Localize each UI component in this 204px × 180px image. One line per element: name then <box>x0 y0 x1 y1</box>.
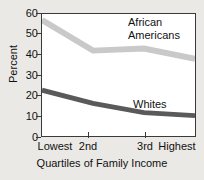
series-label-line-1: African <box>128 16 180 29</box>
x-tick-label-highest: Highest <box>151 140 203 152</box>
x-axis-title: Quartiles of Family Income <box>0 157 204 169</box>
y-tick-label: 10 <box>14 111 38 122</box>
y-axis-tick-mark <box>36 137 41 138</box>
y-axis-title: Percent <box>7 29 19 99</box>
cropped-title-fragment <box>28 0 178 3</box>
chart-figure: 60 50 40 30 20 10 0 Percent Lowest 2nd 3… <box>0 0 204 180</box>
x-axis-tick-mark <box>145 132 146 138</box>
line-whites <box>42 90 195 115</box>
y-tick-label: 60 <box>14 8 38 19</box>
x-axis-tick-mark <box>88 132 89 138</box>
series-label-whites: Whites <box>133 98 167 111</box>
series-label-african-americans: African Americans <box>128 16 180 42</box>
series-label-line-2: Americans <box>128 29 180 42</box>
x-tick-label-2nd: 2nd <box>63 140 113 152</box>
